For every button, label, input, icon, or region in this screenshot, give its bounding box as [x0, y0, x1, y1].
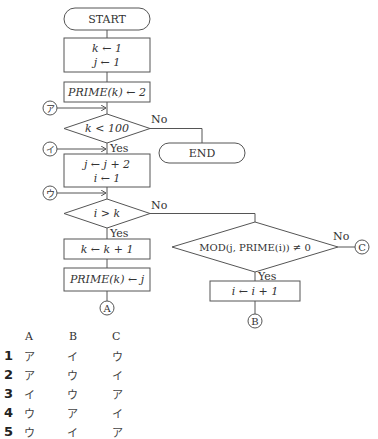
start-terminal: START [64, 8, 150, 30]
connector-u-katakana: ウ [43, 186, 106, 200]
no-label-3: No [333, 230, 350, 243]
end-label: END [189, 147, 216, 160]
svg-text:C: C [358, 242, 366, 253]
choice-row[interactable]: 4 ウ ア イ [0, 405, 200, 423]
end-terminal: END [159, 143, 245, 163]
choices-header: A B C [0, 330, 200, 348]
decision-k-less-100: k < 100 [64, 114, 150, 143]
init-k-text: k ← 1 [92, 42, 122, 55]
yes-label-1: Yes [109, 142, 129, 155]
inc-k-process: k ← k + 1 [64, 239, 150, 259]
connector-A: A [100, 301, 114, 315]
init-process: k ← 1 j ← 1 [64, 38, 150, 72]
svg-text:PRIME(k) ← j: PRIME(k) ← j [69, 273, 145, 286]
choice-row[interactable]: 3 イ ウ ア [0, 386, 200, 404]
init-j-text: j ← 1 [91, 56, 121, 69]
yes-label-2: Yes [109, 227, 129, 240]
svg-text:B: B [251, 316, 258, 327]
connector-B: B [248, 314, 262, 328]
no-label-2: No [151, 199, 168, 212]
choice-row[interactable]: 1 ア イ ウ [0, 348, 200, 366]
choice-row[interactable]: 5 ウ イ ア [0, 424, 200, 439]
svg-text:ア: ア [46, 104, 55, 114]
inc-i-process: i ← i + 1 [210, 281, 300, 301]
svg-text:i ← 1: i ← 1 [94, 172, 121, 185]
svg-text:ウ: ウ [46, 189, 55, 199]
svg-text:i > k: i > k [94, 207, 121, 220]
step-process: j ← j + 2 i ← 1 [64, 154, 150, 187]
decision-mod: MOD(j, PRIME(i)) ≠ 0 [172, 222, 338, 272]
prime-init-text: PRIME(k) ← 2 [67, 86, 146, 99]
svg-text:j ← j + 2: j ← j + 2 [81, 158, 130, 171]
choice-row[interactable]: 2 ア ウ イ [0, 367, 200, 385]
svg-text:k < 100: k < 100 [85, 122, 129, 135]
svg-text:i ← i + 1: i ← i + 1 [232, 285, 278, 298]
no-label-1: No [151, 113, 168, 126]
connector-C: C [355, 240, 369, 254]
prime-set-process: PRIME(k) ← j [64, 268, 150, 291]
connector-a-katakana: ア [43, 101, 106, 115]
svg-text:A: A [102, 303, 111, 314]
svg-text:k ← k + 1: k ← k + 1 [81, 243, 134, 256]
flowchart: START k ← 1 j ← 1 PRIME(k) ← 2 ア k < 100… [0, 0, 378, 330]
svg-text:イ: イ [46, 145, 55, 155]
start-label: START [88, 13, 126, 26]
decision-i-greater-k: i > k [64, 199, 150, 228]
prime-init-process: PRIME(k) ← 2 [64, 82, 150, 102]
svg-text:MOD(j, PRIME(i)) ≠ 0: MOD(j, PRIME(i)) ≠ 0 [199, 242, 311, 253]
